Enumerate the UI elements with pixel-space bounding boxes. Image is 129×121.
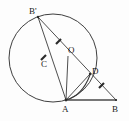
tick-on-b-prime-d xyxy=(56,39,61,44)
label-c: C xyxy=(41,59,47,69)
circle-outline xyxy=(9,14,97,102)
vertex-dot-a xyxy=(65,99,68,102)
geometry-figure: B' C O D A B xyxy=(0,0,129,121)
vertex-dot-d xyxy=(89,73,91,75)
vertex-dot-b xyxy=(115,99,117,101)
label-b-prime: B' xyxy=(29,6,37,16)
label-d: D xyxy=(92,66,99,76)
segment-a-to-o xyxy=(66,56,68,100)
label-a: A xyxy=(62,104,69,114)
label-o: O xyxy=(68,45,75,55)
tick-on-d-b xyxy=(99,83,104,88)
vertex-dot-b-prime xyxy=(37,16,39,18)
geometry-canvas: B' C O D A B xyxy=(0,0,129,121)
label-b: B xyxy=(112,104,118,114)
